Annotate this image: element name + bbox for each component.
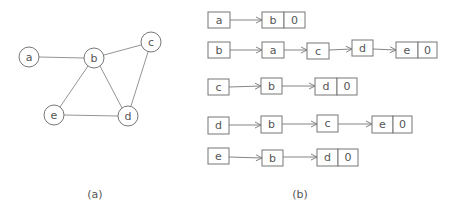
head-label: d — [215, 119, 222, 132]
list-node-label: c — [324, 117, 330, 130]
arrow — [229, 86, 261, 87]
head-label: b — [216, 44, 223, 57]
adjacency-row-e: e b d 0 — [208, 148, 358, 166]
null-label: 0 — [291, 14, 298, 27]
graph-node-a: a — [19, 47, 39, 67]
edge-c-d — [131, 52, 148, 106]
null-label: 0 — [344, 80, 351, 93]
list-node-label: b — [268, 80, 275, 93]
head-label: e — [215, 150, 222, 163]
head-label: c — [215, 81, 221, 94]
edge-b-c — [104, 45, 141, 55]
list-node-label: e — [379, 118, 386, 131]
node-label: e — [51, 109, 58, 122]
graph-diagram: a b c d e (a) — [19, 32, 161, 201]
null-label: 0 — [424, 44, 431, 57]
arrow — [329, 49, 352, 50]
arrow — [373, 49, 396, 50]
list-node-label: b — [269, 152, 276, 165]
caption-b: (b) — [292, 188, 308, 201]
graph-node-c: c — [141, 32, 161, 52]
graph-node-e: e — [44, 105, 64, 125]
edge-e-d — [64, 115, 118, 116]
null-label: 0 — [345, 151, 352, 164]
adjacency-row-c: c b d 0 — [208, 78, 357, 95]
adjacency-row-a: a b 0 — [208, 12, 305, 28]
edge-a-b — [39, 57, 84, 58]
edge-b-d — [100, 66, 122, 108]
node-label: a — [26, 51, 33, 64]
list-node-label: a — [270, 44, 277, 57]
adjacency-list-diagram: a b 0 b a c d e 0 — [208, 12, 437, 201]
null-label: 0 — [399, 118, 406, 131]
list-node-label: d — [324, 151, 331, 164]
node-label: d — [125, 110, 132, 123]
graph-node-d: d — [118, 106, 138, 126]
list-node-label: b — [268, 118, 275, 131]
list-node-label: c — [315, 45, 321, 58]
edge-b-e — [60, 66, 88, 107]
list-node-label: d — [323, 80, 330, 93]
list-node-label: b — [270, 14, 277, 27]
figure: a b c d e (a) a b 0 — [0, 0, 453, 213]
adjacency-row-b: b a c d e 0 — [208, 40, 437, 59]
caption-a: (a) — [87, 188, 102, 201]
node-label: c — [148, 36, 154, 49]
head-label: a — [216, 14, 223, 27]
list-node-label: d — [359, 42, 366, 55]
arrow — [229, 157, 262, 158]
node-label: b — [91, 52, 98, 65]
adjacency-row-d: d b c e 0 — [208, 115, 412, 134]
graph-node-b: b — [84, 48, 104, 68]
list-node-label: e — [404, 44, 411, 57]
